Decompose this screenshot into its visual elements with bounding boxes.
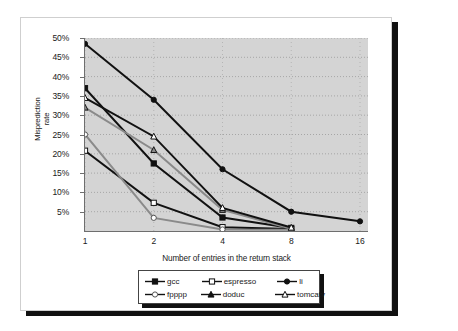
y-axis-title-line-1: Misprediction xyxy=(33,89,42,149)
y-tick-mark xyxy=(80,135,85,136)
data-point-fpppp xyxy=(85,132,88,137)
filled-circle-icon xyxy=(276,276,298,287)
data-series-layer xyxy=(85,41,363,231)
data-point-fpppp xyxy=(151,215,156,220)
data-point-gcc xyxy=(85,86,88,91)
legend-item-espresso[interactable]: espresso xyxy=(201,275,277,288)
chart-figure: 5%10%15%20%25%30%35%40%45%50% 124816 Mis… xyxy=(21,18,393,312)
y-tick-label: 50% xyxy=(33,33,69,43)
data-point-doduc xyxy=(85,104,88,110)
legend-label: espresso xyxy=(223,277,256,286)
open-triangle-icon xyxy=(274,289,296,300)
legend-label: gcc xyxy=(166,277,179,286)
y-tick-mark xyxy=(80,154,85,155)
y-tick-mark xyxy=(80,192,85,193)
y-tick-mark xyxy=(80,212,85,213)
x-tick-label: 4 xyxy=(208,236,238,246)
legend-item-gcc[interactable]: gcc xyxy=(144,275,201,288)
legend-label: tomcatv xyxy=(296,290,325,299)
legend-item-tomcatv[interactable]: tomcatv xyxy=(274,288,314,301)
series-line-gcc xyxy=(85,88,291,228)
legend-item-li[interactable]: li xyxy=(276,275,314,288)
data-point-li xyxy=(289,209,294,214)
x-axis-line xyxy=(84,231,368,232)
y-tick-label: 5% xyxy=(33,207,69,217)
y-tick-label: 20% xyxy=(33,149,69,159)
y-tick-mark xyxy=(80,96,85,97)
data-point-li xyxy=(151,97,156,102)
x-tick-label: 16 xyxy=(345,236,375,246)
filled-triangle-icon xyxy=(200,289,222,300)
legend-label: doduc xyxy=(222,290,245,299)
y-axis-title-line-2: rate xyxy=(42,89,51,149)
plot-area xyxy=(85,38,368,231)
legend-item-doduc[interactable]: doduc xyxy=(200,288,274,301)
y-tick-mark xyxy=(80,38,85,39)
data-point-tomcatv xyxy=(85,95,88,101)
data-point-espresso xyxy=(151,200,156,205)
y-tick-label: 40% xyxy=(33,72,69,82)
filled-square-icon xyxy=(144,276,166,287)
x-axis-title: Number of entries in the return stack xyxy=(85,254,368,263)
y-tick-mark xyxy=(80,57,85,58)
series-line-doduc xyxy=(85,107,291,228)
data-point-li xyxy=(220,167,225,172)
data-point-gcc xyxy=(151,161,156,166)
open-square-icon xyxy=(201,276,223,287)
series-line-tomcatv xyxy=(85,98,291,228)
legend-item-fpppp[interactable]: fpppp xyxy=(144,288,200,301)
y-tick-mark xyxy=(80,173,85,174)
y-tick-mark xyxy=(80,77,85,78)
open-circle-icon xyxy=(144,289,166,300)
data-point-gcc xyxy=(220,215,225,220)
y-axis-title: Misprediction rate xyxy=(33,89,51,149)
legend-label: fpppp xyxy=(166,290,187,299)
x-tick-label: 1 xyxy=(70,236,100,246)
data-point-li xyxy=(85,41,88,46)
legend-row: gccespressoli xyxy=(144,275,314,288)
data-point-espresso xyxy=(85,148,88,153)
y-tick-label: 10% xyxy=(33,187,69,197)
scanned-page-frame: 5%10%15%20%25%30%35%40%45%50% 124816 Mis… xyxy=(20,17,392,311)
y-tick-label: 45% xyxy=(33,52,69,62)
y-tick-mark xyxy=(80,115,85,116)
legend-row: fppppdoductomcatv xyxy=(144,288,314,301)
x-tick-label: 2 xyxy=(139,236,169,246)
plot-svg xyxy=(85,38,368,231)
data-point-li xyxy=(357,219,362,224)
legend-label: li xyxy=(298,277,303,286)
y-tick-label: 15% xyxy=(33,168,69,178)
x-tick-label: 8 xyxy=(276,236,306,246)
chart-legend: gccespressoli fppppdoductomcatv xyxy=(138,270,320,304)
